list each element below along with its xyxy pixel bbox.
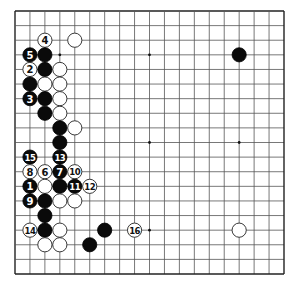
move-number-label: 11 <box>69 182 80 192</box>
black-stone-disc <box>38 106 52 120</box>
white-stone: 4 <box>38 33 52 47</box>
move-number-label: 1 <box>26 181 33 192</box>
white-stone: 6 <box>38 165 52 179</box>
move-number-label: 8 <box>26 167 33 178</box>
black-stone-disc <box>38 92 52 106</box>
black-stone: 13 <box>53 150 67 164</box>
black-stone: 3 <box>23 92 37 106</box>
move-number-label: 10 <box>69 167 80 177</box>
white-stone-disc <box>53 62 67 76</box>
black-stone-disc <box>232 48 246 62</box>
white-stone <box>38 238 52 252</box>
white-stone <box>53 92 67 106</box>
black-stone <box>23 77 37 91</box>
move-number-label: 4 <box>41 35 48 46</box>
white-stone: 14 <box>23 223 37 237</box>
white-stone <box>38 77 52 91</box>
black-stone <box>38 106 52 120</box>
white-stone <box>53 62 67 76</box>
black-stone <box>38 194 52 208</box>
move-number-label: 13 <box>54 153 65 163</box>
black-stone: 7 <box>53 165 67 179</box>
white-stone <box>38 179 52 193</box>
white-stone <box>53 194 67 208</box>
black-stone-disc <box>53 121 67 135</box>
white-stone <box>68 194 82 208</box>
black-stone-disc <box>83 238 97 252</box>
black-stone <box>38 62 52 76</box>
white-stone <box>53 77 67 91</box>
white-stone-disc <box>38 77 52 91</box>
white-stone: 8 <box>23 165 37 179</box>
white-stone <box>53 106 67 120</box>
white-stone-disc <box>232 223 246 237</box>
black-stone <box>53 135 67 149</box>
black-stone <box>38 48 52 62</box>
black-stone-disc <box>38 48 52 62</box>
white-stone <box>68 33 82 47</box>
black-stone: 5 <box>23 48 37 62</box>
black-stone: 9 <box>23 194 37 208</box>
white-stone-disc <box>53 77 67 91</box>
black-stone: 15 <box>23 150 37 164</box>
white-stone-disc <box>53 92 67 106</box>
white-stone-disc <box>38 179 52 193</box>
black-stone-disc <box>38 208 52 222</box>
white-stone-disc <box>53 106 67 120</box>
black-stone <box>232 48 246 62</box>
black-stone <box>83 238 97 252</box>
white-stone: 2 <box>23 62 37 76</box>
move-number-label: 2 <box>26 64 33 75</box>
move-number-label: 6 <box>41 167 48 178</box>
black-stone: 11 <box>68 179 82 193</box>
white-stone <box>53 238 67 252</box>
go-board: 45231513867101111291416 <box>0 0 295 287</box>
move-number-label: 14 <box>25 226 36 236</box>
move-number-label: 12 <box>84 182 95 192</box>
white-stone-disc <box>68 194 82 208</box>
star-point <box>238 141 241 144</box>
white-stone-disc <box>53 194 67 208</box>
white-stone: 10 <box>68 165 82 179</box>
move-number-label: 16 <box>129 226 140 236</box>
white-stone: 16 <box>127 223 141 237</box>
white-stone-disc <box>38 238 52 252</box>
black-stone-disc <box>38 223 52 237</box>
white-stone-disc <box>53 238 67 252</box>
black-stone-disc <box>38 194 52 208</box>
black-stone <box>53 179 67 193</box>
black-stone <box>38 92 52 106</box>
black-stone-disc <box>53 179 67 193</box>
move-number-label: 9 <box>26 196 33 207</box>
white-stone <box>68 121 82 135</box>
black-stone <box>53 121 67 135</box>
star-point <box>148 141 151 144</box>
white-stone-disc <box>68 121 82 135</box>
black-stone <box>38 223 52 237</box>
black-stone-disc <box>38 62 52 76</box>
white-stone-disc <box>53 223 67 237</box>
black-stone: 1 <box>23 179 37 193</box>
move-number-label: 7 <box>56 167 63 178</box>
move-number-label: 15 <box>25 153 36 163</box>
star-point <box>148 53 151 56</box>
black-stone-disc <box>23 77 37 91</box>
white-stone <box>53 223 67 237</box>
black-stone <box>98 223 112 237</box>
star-point <box>148 229 151 232</box>
white-stone: 12 <box>83 179 97 193</box>
star-point <box>58 53 61 56</box>
white-stone-disc <box>68 33 82 47</box>
black-stone-disc <box>98 223 112 237</box>
white-stone <box>232 223 246 237</box>
move-number-label: 3 <box>26 94 33 105</box>
move-number-label: 5 <box>26 50 33 61</box>
black-stone-disc <box>53 135 67 149</box>
black-stone <box>38 208 52 222</box>
